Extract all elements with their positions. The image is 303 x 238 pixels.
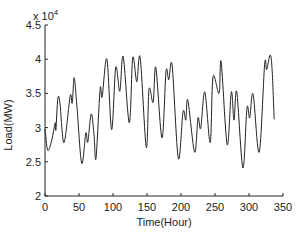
x-tick-label: 300 (240, 201, 258, 213)
x-axis-label: Time(Hour) (136, 216, 191, 228)
y-tick-label: 4 (35, 53, 41, 65)
x-tick-label: 0 (42, 201, 48, 213)
x-tick-label: 50 (73, 201, 85, 213)
x-tick-label: 200 (172, 201, 190, 213)
load-line-chart: 22.533.544.5 050100150200250300350 x 104… (0, 0, 303, 238)
y-axis-label: Load(MW) (2, 99, 14, 150)
y-tick-label: 3 (35, 122, 41, 134)
y-multiplier-label: x 104 (33, 8, 59, 22)
plot-area (45, 55, 274, 168)
x-tick-label: 350 (274, 201, 292, 213)
y-tick-label: 3.5 (26, 87, 41, 99)
x-tick-label: 150 (138, 201, 156, 213)
load-series-line (45, 55, 274, 168)
x-tick-label: 100 (104, 201, 122, 213)
y-tick-label: 2 (35, 190, 41, 202)
y-tick-label: 2.5 (26, 156, 41, 168)
x-tick-label: 250 (206, 201, 224, 213)
